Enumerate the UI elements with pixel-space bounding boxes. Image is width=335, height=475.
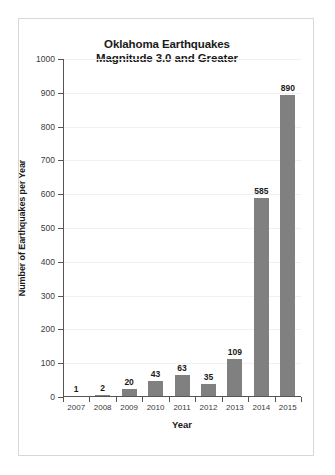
- x-axis-title: Year: [63, 419, 301, 430]
- y-axis-tick: [58, 59, 63, 60]
- bar: [201, 384, 216, 396]
- x-axis-tick: [142, 397, 143, 402]
- bar-value-label: 1: [74, 384, 79, 394]
- y-axis-tick-label: 0: [50, 392, 55, 402]
- gridline: [64, 59, 301, 60]
- bar: [227, 359, 242, 396]
- bar-value-label: 63: [177, 363, 186, 373]
- x-axis-tick: [222, 397, 223, 402]
- y-axis-tick-label: 200: [41, 324, 55, 334]
- x-axis-tick: [116, 397, 117, 402]
- y-axis-tick-label: 300: [41, 291, 55, 301]
- bar-value-label: 43: [151, 369, 160, 379]
- x-axis-tick-label: 2014: [252, 403, 270, 412]
- bar-value-label: 20: [124, 377, 133, 387]
- x-axis-tick-label: 2013: [226, 403, 244, 412]
- y-axis-tick-label: 1000: [36, 54, 55, 64]
- x-axis-tick-label: 2011: [173, 403, 190, 412]
- y-axis-tick-label: 900: [41, 88, 55, 98]
- y-axis-title: Number of Earthquakes per Year: [17, 59, 31, 397]
- y-axis-tick-label: 500: [41, 223, 55, 233]
- y-axis-tick-label: 600: [41, 189, 55, 199]
- bar-value-label: 35: [204, 372, 213, 382]
- gridline: [64, 160, 301, 161]
- y-axis-tick: [58, 262, 63, 263]
- x-axis-tick-label: 2008: [94, 403, 112, 412]
- y-axis-tick: [58, 160, 63, 161]
- gridline: [64, 127, 301, 128]
- bar: [254, 198, 269, 396]
- x-axis-tick-label: 2009: [120, 403, 138, 412]
- gridline: [64, 93, 301, 94]
- x-axis-tick: [301, 397, 302, 402]
- x-axis-tick-label: 2007: [67, 403, 85, 412]
- x-axis-tick-label: 2010: [147, 403, 165, 412]
- x-axis-tick: [195, 397, 196, 402]
- x-axis-tick-label: 2012: [200, 403, 218, 412]
- y-axis-tick-label: 100: [41, 358, 55, 368]
- y-axis-tick: [58, 363, 63, 364]
- bar-value-label: 890: [281, 83, 295, 93]
- bar-value-label: 109: [228, 347, 242, 357]
- bar: [148, 381, 163, 396]
- y-axis-tick: [58, 93, 63, 94]
- plot-area: 01002003004005006007008009001000 1220436…: [63, 59, 301, 397]
- bar: [175, 375, 190, 396]
- x-axis-tick-label: 2015: [279, 403, 297, 412]
- bar-value-label: 585: [254, 186, 268, 196]
- y-axis-tick: [58, 228, 63, 229]
- bar: [122, 389, 137, 396]
- y-axis-tick: [58, 127, 63, 128]
- chart-title-line-1: Oklahoma Earthquakes: [19, 37, 315, 51]
- chart-figure: Oklahoma Earthquakes Magnitude 3.0 and G…: [18, 18, 314, 456]
- x-axis-line: [63, 396, 301, 397]
- x-axis-tick: [89, 397, 90, 402]
- y-axis-tick: [58, 296, 63, 297]
- x-axis-tick: [63, 397, 64, 402]
- bar: [95, 395, 110, 396]
- y-axis-tick-label: 700: [41, 155, 55, 165]
- x-axis-tick: [248, 397, 249, 402]
- bar: [280, 95, 295, 396]
- y-axis-tick-label: 800: [41, 122, 55, 132]
- y-axis-tick: [58, 194, 63, 195]
- x-axis-tick: [275, 397, 276, 402]
- y-axis-tick: [58, 329, 63, 330]
- x-axis-tick: [169, 397, 170, 402]
- y-axis-tick-label: 400: [41, 257, 55, 267]
- bar-value-label: 2: [100, 383, 105, 393]
